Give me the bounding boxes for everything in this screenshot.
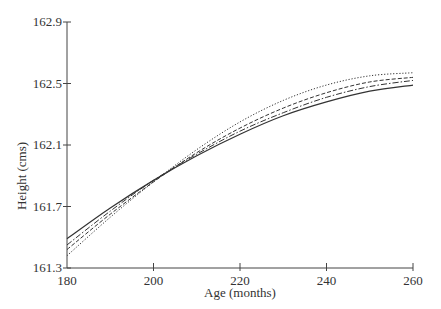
x-tick-label: 240 [317,273,337,288]
tick-labels: 161.3161.7162.1162.5162.9180200220240260 [33,14,423,288]
x-axis-title: Age (months) [204,285,276,300]
series-line-solid [67,85,413,239]
axes [63,22,413,271]
y-axis-title: Height (cms) [14,142,29,210]
x-tick-label: 200 [144,273,164,288]
series-line-dashed [67,77,413,249]
y-tick-label: 162.5 [33,76,62,91]
line-chart: 161.3161.7162.1162.5162.9180200220240260… [0,0,441,309]
x-tick-label: 180 [57,273,77,288]
x-tick-label: 260 [403,273,423,288]
y-tick-label: 162.1 [33,137,62,152]
y-tick-label: 162.9 [33,14,62,29]
series-lines [67,73,413,256]
y-tick-label: 161.7 [33,199,63,214]
series-line-dotted [67,73,413,256]
series-line-dash-dot [67,80,413,245]
